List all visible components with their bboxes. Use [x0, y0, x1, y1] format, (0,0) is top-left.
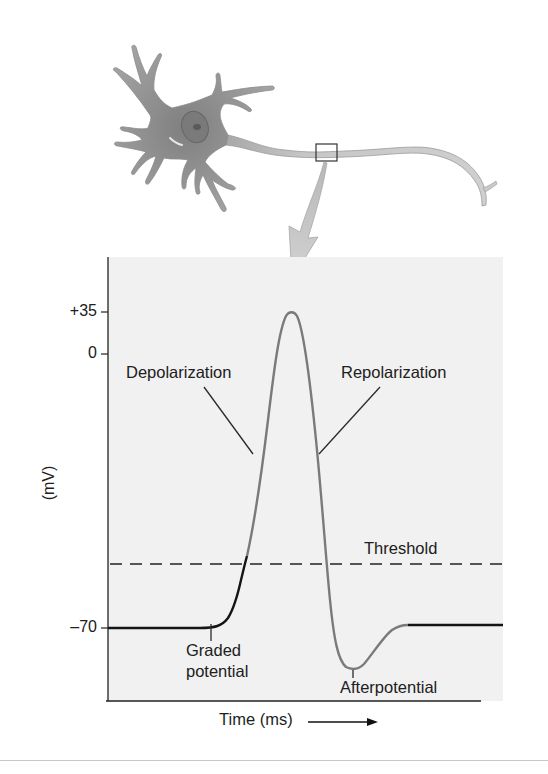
y-tick-label-plus35: +35	[37, 302, 97, 320]
depolarization-label: Depolarization	[126, 363, 231, 381]
y-tick-label-0: 0	[37, 344, 97, 362]
y-tick-label-minus70: –70	[37, 618, 97, 636]
neuron-illustration	[113, 45, 497, 211]
figure-graphics	[0, 0, 548, 774]
nucleolus	[193, 124, 201, 130]
time-arrow-head-icon	[367, 718, 378, 726]
bottom-separator	[0, 760, 548, 761]
chart-panel	[108, 257, 503, 701]
afterpotential-label: Afterpotential	[340, 678, 437, 696]
y-axis-label: (mV)	[40, 463, 58, 503]
action-potential-figure: +35 0 –70 (mV) Depolarization Repolariza…	[0, 0, 548, 774]
graded-potential-label-line1: Graded	[186, 641, 241, 659]
axon-terminal	[483, 181, 497, 192]
graded-potential-label-line2: potential	[186, 662, 248, 680]
axon	[226, 135, 486, 206]
repolarization-label: Repolarization	[341, 363, 446, 381]
threshold-label: Threshold	[364, 539, 437, 557]
x-axis-label-group: Time (ms)	[219, 710, 293, 729]
x-axis-label: Time (ms)	[219, 710, 293, 729]
